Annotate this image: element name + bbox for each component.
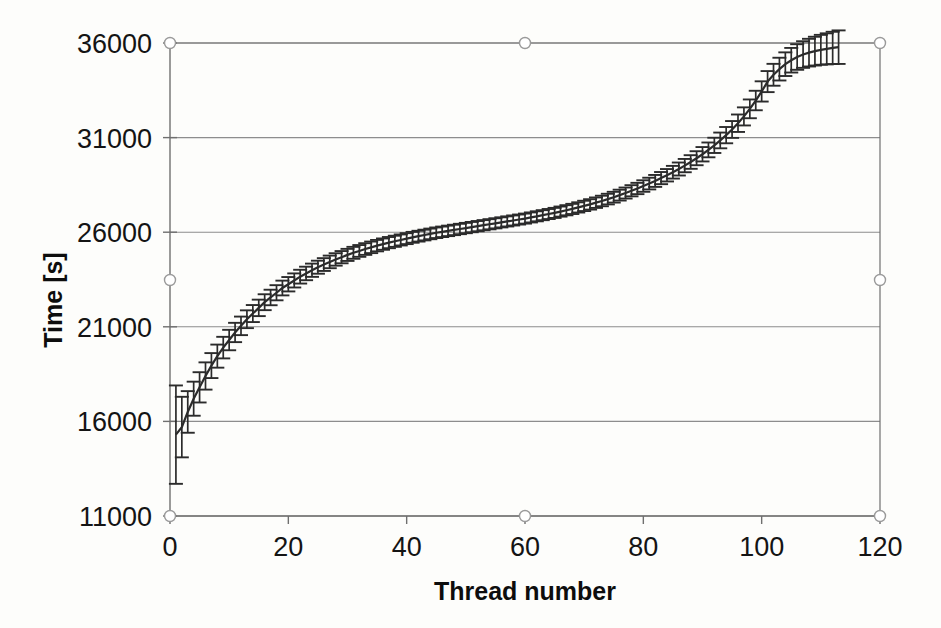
y-tick-label: 16000 <box>77 407 152 437</box>
x-tick-label: 20 <box>273 532 303 562</box>
handle-middle-right[interactable] <box>875 275 886 286</box>
chart-canvas: 110001600021000260003100036000 020406080… <box>0 0 941 628</box>
y-axis-title: Time [s] <box>39 252 67 347</box>
y-tick-label: 36000 <box>77 29 152 59</box>
handle-bottom-right[interactable] <box>875 511 886 522</box>
y-tick-label: 26000 <box>77 218 152 248</box>
x-tick-label: 80 <box>628 532 658 562</box>
y-tick-label: 11000 <box>79 502 152 532</box>
x-tick-label: 100 <box>739 532 784 562</box>
x-tick-label: 60 <box>510 532 540 562</box>
x-tick-label: 40 <box>392 532 422 562</box>
handle-top-left[interactable] <box>165 38 176 49</box>
handle-bottom-left[interactable] <box>165 511 176 522</box>
x-axis-title: Thread number <box>434 577 616 605</box>
chart-figure: 110001600021000260003100036000 020406080… <box>0 0 941 628</box>
handle-bottom-center[interactable] <box>520 511 531 522</box>
y-tick-label: 21000 <box>77 313 152 343</box>
x-tick-label: 120 <box>857 532 902 562</box>
x-tick-label: 0 <box>162 532 177 562</box>
handle-top-center[interactable] <box>520 38 531 49</box>
handle-middle-left[interactable] <box>165 275 176 286</box>
handle-top-right[interactable] <box>875 38 886 49</box>
y-tick-label: 31000 <box>77 124 152 154</box>
